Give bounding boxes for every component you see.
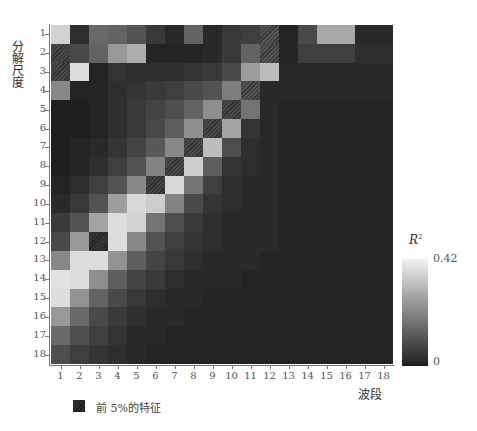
heatmap-cell (355, 289, 374, 308)
heatmap-cell (146, 119, 165, 138)
heatmap-cell (374, 213, 393, 232)
heatmap-cell (355, 345, 374, 364)
heatmap-cell (89, 270, 108, 289)
y-tick-mark (45, 204, 49, 205)
heatmap-cell (298, 119, 317, 138)
heatmap-cell (70, 345, 89, 364)
heatmap-cell (260, 63, 279, 82)
heatmap-cell (108, 326, 127, 345)
heatmap-cell (279, 176, 298, 195)
heatmap-cell (146, 345, 165, 364)
heatmap-cell (146, 100, 165, 119)
x-tick-label: 10 (222, 370, 242, 381)
heatmap-cell (127, 25, 146, 44)
heatmap-cell (298, 289, 317, 308)
heatmap-cell (165, 307, 184, 326)
x-tick-mark (251, 365, 252, 369)
heatmap-cell (89, 289, 108, 308)
heatmap-cell (70, 326, 89, 345)
heatmap-cell (89, 100, 108, 119)
heatmap-cell (70, 289, 89, 308)
heatmap-cell (222, 44, 241, 63)
heatmap-cell (222, 307, 241, 326)
heatmap-cell (279, 44, 298, 63)
heatmap-cell (317, 270, 336, 289)
heatmap-cell (165, 176, 184, 195)
heatmap-cell (279, 138, 298, 157)
y-tick-label: 5 (30, 103, 46, 114)
heatmap-cell (279, 307, 298, 326)
heatmap-cell (165, 232, 184, 251)
heatmap-cell (317, 81, 336, 100)
y-tick-mark (45, 53, 49, 54)
heatmap-cell (355, 81, 374, 100)
heatmap-cell (355, 270, 374, 289)
y-tick-mark (45, 166, 49, 167)
heatmap-cell (336, 81, 355, 100)
heatmap-cell (146, 289, 165, 308)
heatmap-cell (51, 307, 70, 326)
heatmap-cell (298, 176, 317, 195)
heatmap-cell (184, 138, 203, 157)
heatmap-cell (108, 270, 127, 289)
heatmap-cell (203, 345, 222, 364)
heatmap-cell (165, 213, 184, 232)
x-tick-label: 8 (184, 370, 204, 381)
x-tick-mark (270, 365, 271, 369)
heatmap-cell (108, 213, 127, 232)
x-tick-label: 15 (317, 370, 337, 381)
heatmap-cell (70, 307, 89, 326)
heatmap-cell (355, 176, 374, 195)
heatmap-cell (203, 270, 222, 289)
heatmap-cell (317, 307, 336, 326)
heatmap-cell (184, 176, 203, 195)
x-tick-mark (194, 365, 195, 369)
heatmap-cell (146, 157, 165, 176)
heatmap-cell (184, 194, 203, 213)
heatmap-cell (260, 326, 279, 345)
heatmap-cell (51, 138, 70, 157)
heatmap-cell (184, 157, 203, 176)
heatmap-cell (317, 119, 336, 138)
heatmap-cell (127, 157, 146, 176)
x-tick-mark (61, 365, 62, 369)
heatmap-cell (298, 345, 317, 364)
heatmap-cell (222, 289, 241, 308)
heatmap-cell (222, 326, 241, 345)
legend-label: 前 5%的特征 (96, 399, 161, 415)
heatmap-cell (165, 81, 184, 100)
heatmap-cell (89, 213, 108, 232)
heatmap-cell (298, 100, 317, 119)
heatmap-cell (108, 44, 127, 63)
x-tick-mark (365, 365, 366, 369)
heatmap-cell (355, 63, 374, 82)
heatmap-cell (51, 232, 70, 251)
heatmap-cell (241, 44, 260, 63)
heatmap-cell (203, 176, 222, 195)
heatmap-cell (184, 213, 203, 232)
heatmap-cell (336, 289, 355, 308)
x-tick-mark (308, 365, 309, 369)
heatmap-cell (70, 100, 89, 119)
y-tick-label: 11 (30, 216, 46, 227)
y-tick-mark (45, 34, 49, 35)
heatmap-cell (317, 63, 336, 82)
heatmap-cell (127, 345, 146, 364)
heatmap-cell (127, 44, 146, 63)
heatmap-cell (165, 63, 184, 82)
heatmap-cell (108, 25, 127, 44)
heatmap-cell (336, 307, 355, 326)
heatmap-cell (355, 157, 374, 176)
y-tick-label: 6 (30, 122, 46, 133)
heatmap-cell (70, 251, 89, 270)
heatmap-cell (222, 213, 241, 232)
heatmap-cell (127, 81, 146, 100)
heatmap-cell (260, 289, 279, 308)
heatmap-cell (108, 194, 127, 213)
heatmap-cell (260, 157, 279, 176)
heatmap-cell (127, 100, 146, 119)
heatmap-cell (70, 270, 89, 289)
heatmap-cell (355, 25, 374, 44)
heatmap-cell (355, 307, 374, 326)
heatmap-cell (241, 232, 260, 251)
